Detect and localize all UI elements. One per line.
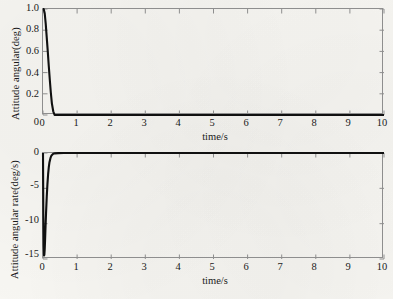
ticks-top — [43, 9, 384, 115]
x-tick-label-top-0: 0 — [34, 117, 50, 128]
x-tick-label-top-4: 4 — [170, 117, 186, 128]
chart-panel-attitude-angular: Attitude angular(deg) 1.0 0.8 0.6 0.4 0.… — [0, 0, 393, 150]
x-tick-label-bottom-9: 9 — [340, 261, 356, 272]
plot-frame-bottom — [42, 152, 383, 258]
plot-svg-top — [43, 9, 384, 115]
x-tick-label-top-9: 9 — [340, 117, 356, 128]
x-tick-label-bottom-2: 2 — [102, 261, 118, 272]
x-tick-label-top-10: 10 — [373, 117, 391, 128]
x-tick-label-top-2: 2 — [102, 117, 118, 128]
y-tick-label-bottom-0: 0 — [17, 146, 39, 157]
x-tick-label-top-3: 3 — [136, 117, 152, 128]
x-tick-label-top-8: 8 — [306, 117, 322, 128]
x-tick-label-top-1: 1 — [68, 117, 84, 128]
y-tick-label-top-1.0: 1.0 — [19, 2, 39, 13]
x-tick-label-bottom-3: 3 — [136, 261, 152, 272]
y-tick-label-top-0.6: 0.6 — [19, 45, 39, 56]
y-tick-label-top-0.8: 0.8 — [19, 23, 39, 34]
x-tick-label-bottom-6: 6 — [238, 261, 254, 272]
x-axis-label-bottom: time/s — [185, 275, 245, 286]
x-tick-label-bottom-7: 7 — [272, 261, 288, 272]
x-tick-label-top-6: 6 — [238, 117, 254, 128]
x-tick-label-top-5: 5 — [204, 117, 220, 128]
x-tick-label-bottom-4: 4 — [170, 261, 186, 272]
chart-panel-attitude-angular-rate: Attitude angular rate(deg/s) 0 -5 -10 -1… — [0, 149, 393, 299]
y-tick-label-bottom--10: -10 — [14, 214, 39, 225]
ticks-bottom — [43, 153, 384, 259]
x-tick-label-bottom-0: 0 — [34, 261, 50, 272]
x-tick-label-bottom-10: 10 — [373, 261, 391, 272]
plot-svg-bottom — [43, 153, 384, 259]
data-trace-attitude-angular — [43, 9, 384, 115]
x-tick-label-bottom-8: 8 — [306, 261, 322, 272]
y-tick-label-top-0.4: 0.4 — [19, 67, 39, 78]
x-tick-label-top-7: 7 — [272, 117, 288, 128]
y-tick-label-bottom--5: -5 — [17, 179, 39, 190]
plot-frame-top — [42, 8, 383, 114]
x-axis-label-top: time/s — [185, 131, 245, 142]
x-tick-label-bottom-5: 5 — [204, 261, 220, 272]
y-tick-label-top-0.2: 0.2 — [19, 88, 39, 99]
x-tick-label-bottom-1: 1 — [68, 261, 84, 272]
y-tick-label-bottom--15: -15 — [14, 248, 39, 259]
data-trace-attitude-angular-rate — [43, 153, 384, 255]
